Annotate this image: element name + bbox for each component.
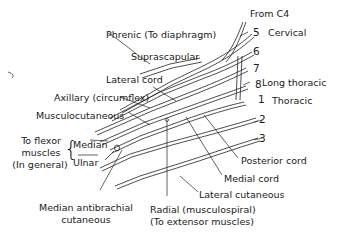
rib-2-label: 2: [259, 114, 266, 125]
axillary-label: Axillary (circumflex): [54, 92, 149, 103]
root-c8-label: 8: [255, 79, 262, 90]
long-thoracic-label: Long thoracic: [262, 77, 326, 88]
median-antibrachial-label-1: Median antibrachial: [26, 202, 146, 213]
radial-label-2: (To extensor muscles): [150, 216, 254, 227]
rib-3-label: 3: [259, 133, 266, 144]
posterior-cord-label: Posterior cord: [241, 155, 307, 166]
median-antibrachial-label-2: cutaneous: [26, 214, 146, 225]
thoracic-label: Thoracic: [272, 95, 312, 106]
to-flexor-label-1: To flexor: [12, 135, 70, 146]
root-c5-label: 5: [253, 27, 260, 38]
lateral-cutaneous-label: Lateral cutaneous: [199, 189, 285, 200]
root-t1-label: 1: [258, 94, 265, 105]
radial-label-1: Radial (musculospiral): [150, 204, 256, 215]
suprascapular-label: Suprascapular: [131, 51, 199, 62]
medial-cord-label: Medial cord: [224, 173, 279, 184]
root-c7-label: 7: [253, 63, 260, 74]
to-flexor-label-2: muscles: [12, 147, 70, 158]
ulnar-label: Ulnar: [73, 157, 98, 168]
from-c4-label: From C4: [250, 8, 289, 19]
phrenic-label: Phrenic (To diaphragm): [106, 29, 216, 40]
to-flexor-label-3: (In general): [8, 159, 72, 170]
brachial-plexus-diagram: From C4 5 Cervical 6 7 8 1 Thoracic 2 3 …: [0, 0, 345, 236]
cervical-label: Cervical: [268, 27, 306, 38]
root-c6-label: 6: [253, 46, 260, 57]
lateral-cord-label: Lateral cord: [106, 74, 163, 85]
median-label: Median: [73, 139, 108, 150]
musculocutaneous-label: Musculocutaneous: [36, 110, 124, 121]
